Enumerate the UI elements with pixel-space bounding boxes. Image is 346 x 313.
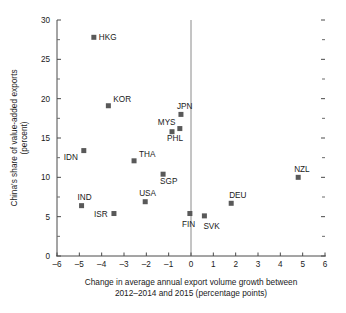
data-point-label: USA — [139, 189, 156, 198]
x-axis-title-line1: Change in average annual export volume g… — [85, 277, 298, 287]
data-point: USA — [139, 189, 156, 204]
data-point-marker — [106, 103, 111, 108]
x-tick-label: 0 — [189, 260, 194, 269]
data-point-marker — [178, 112, 183, 117]
data-point-label: HKG — [99, 33, 117, 42]
x-tick-label: 3 — [256, 260, 261, 269]
data-point: ISR — [94, 210, 117, 219]
y-axis-title-line1: China's share of value-added exports — [9, 69, 19, 206]
chart-canvas: –6–5–4–3–2–10123456051015202530HKGKORJPN… — [0, 0, 346, 313]
data-point-label: NZL — [294, 165, 310, 174]
y-tick-label: 10 — [41, 173, 51, 182]
data-point-label: DEU — [229, 191, 246, 200]
y-axis-title-line2: (percent) — [19, 121, 29, 154]
data-point: KOR — [106, 95, 131, 108]
data-point-label: KOR — [113, 95, 131, 104]
data-point-marker — [296, 175, 301, 180]
y-tick-label: 30 — [41, 16, 51, 25]
y-tick-label: 25 — [41, 55, 51, 64]
data-point: FIN — [182, 211, 195, 229]
data-point-label: MYS — [158, 118, 176, 127]
data-point-marker — [79, 203, 84, 208]
data-point: IDN — [64, 148, 87, 162]
data-point-marker — [143, 199, 148, 204]
x-tick-label: 5 — [300, 260, 305, 269]
y-tick-label: 0 — [45, 252, 50, 261]
y-tick-label: 20 — [41, 95, 51, 104]
x-tick-label: 6 — [323, 260, 328, 269]
x-tick-label: –4 — [97, 260, 107, 269]
x-tick-label: 1 — [211, 260, 216, 269]
data-point: DEU — [229, 191, 247, 206]
data-point: THA — [132, 150, 156, 163]
data-point-marker — [111, 211, 116, 216]
data-point-marker — [132, 158, 137, 163]
x-axis-title-line2: 2012–2014 and 2015 (percentage points) — [115, 288, 267, 298]
x-tick-label: –2 — [142, 260, 152, 269]
x-tick-label: –3 — [119, 260, 129, 269]
data-point: SGP — [160, 172, 178, 187]
data-point-label: IDN — [64, 153, 78, 162]
data-point-label: THA — [139, 150, 156, 159]
x-tick-label: –6 — [52, 260, 62, 269]
data-point: MYS — [158, 118, 183, 131]
data-point-label: JPN — [177, 102, 193, 111]
data-point-label: SVK — [203, 222, 220, 231]
x-tick-label: –1 — [164, 260, 174, 269]
data-point-marker — [229, 201, 234, 206]
x-tick-label: 4 — [278, 260, 283, 269]
x-tick-label: –5 — [75, 260, 85, 269]
data-point-label: IND — [78, 193, 92, 202]
data-point-marker — [177, 126, 182, 131]
y-tick-label: 15 — [41, 134, 51, 143]
data-point-label: ISR — [94, 210, 108, 219]
data-point-marker — [81, 148, 86, 153]
data-point-marker — [187, 211, 192, 216]
data-point-marker — [161, 172, 166, 177]
data-point: IND — [78, 193, 92, 208]
data-point-label: FIN — [182, 220, 195, 229]
data-point: JPN — [177, 102, 193, 117]
data-point: HKG — [91, 33, 116, 42]
data-point-marker — [202, 213, 207, 218]
data-point-label: PHL — [167, 134, 183, 143]
x-tick-label: 2 — [233, 260, 238, 269]
data-point: NZL — [294, 165, 310, 180]
data-point: SVK — [202, 213, 220, 231]
data-point: PHL — [167, 129, 183, 143]
data-point-label: SGP — [160, 177, 178, 186]
y-tick-label: 5 — [45, 213, 50, 222]
data-point-marker — [91, 35, 96, 40]
scatter-chart: –6–5–4–3–2–10123456051015202530HKGKORJPN… — [0, 0, 346, 313]
